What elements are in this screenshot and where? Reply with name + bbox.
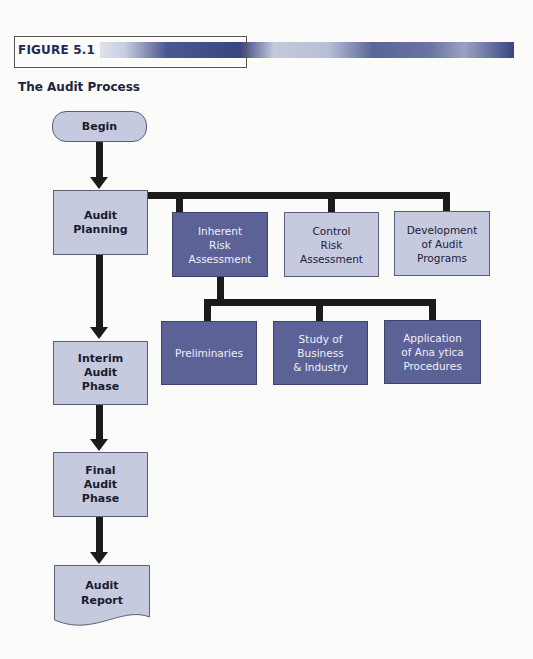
audit-planning-node: Audit Planning (53, 190, 148, 255)
arrow-down-icon (90, 177, 108, 189)
arrow-down-icon (90, 327, 108, 339)
connector-final-report (96, 517, 103, 553)
connector-to-application (429, 299, 436, 321)
figure-title: The Audit Process (18, 80, 140, 94)
connector-to-preliminaries (204, 299, 211, 321)
connector-to-development (443, 192, 450, 212)
connector-begin-planning (96, 142, 103, 178)
arrow-down-icon (90, 552, 108, 564)
figure-label: FIGURE 5.1 (18, 43, 95, 57)
final-audit-phase-node: Final Audit Phase (53, 452, 148, 517)
connector-planning-branch-horizontal (148, 192, 450, 199)
connector-to-control (328, 192, 335, 212)
control-risk-assessment-node: Control Risk Assessment (284, 212, 379, 277)
connector-planning-interim (96, 255, 103, 328)
inherent-risk-assessment-node: Inherent Risk Assessment (172, 212, 268, 277)
interim-audit-phase-node: Interim Audit Phase (53, 341, 148, 405)
connector-to-inherent (176, 192, 183, 212)
application-of-analytical-procedures-node: Application of Ana ytica Procedures (384, 320, 481, 384)
audit-report-node: Audit Report (54, 565, 150, 627)
audit-report-label: Audit Report (54, 573, 150, 613)
development-of-audit-programs-node: Development of Audit Programs (394, 211, 490, 276)
preliminaries-node: Preliminaries (161, 321, 257, 385)
arrow-down-icon (90, 439, 108, 451)
connector-interim-final (96, 405, 103, 440)
study-of-business-industry-node: Study of Business & Industry (273, 321, 368, 385)
connector-to-study (316, 299, 323, 321)
begin-node: Begin (52, 111, 147, 142)
